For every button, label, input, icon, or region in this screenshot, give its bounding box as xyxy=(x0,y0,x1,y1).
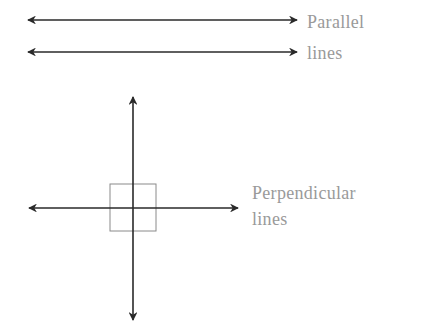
perpendicular-lines-label: Perpendicular lines xyxy=(252,180,356,232)
diagram-canvas xyxy=(0,0,439,334)
perpendicular-label-line1: Perpendicular xyxy=(252,180,356,206)
parallel-label-line2: lines xyxy=(307,38,364,69)
perpendicular-label-line2: lines xyxy=(252,206,356,232)
parallel-label-line1: Parallel xyxy=(307,7,364,38)
parallel-lines-group xyxy=(28,20,297,52)
parallel-lines-label: Parallel lines xyxy=(307,7,364,69)
perpendicular-lines-group xyxy=(29,97,238,320)
